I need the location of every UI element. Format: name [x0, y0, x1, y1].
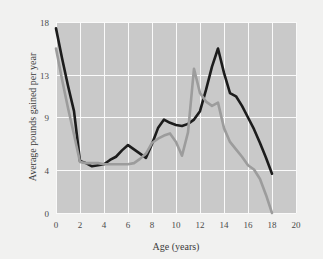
y-tick-label-18: 18: [40, 18, 50, 28]
growth-chart-figure: 02468101214161820 0491318 Age (years) Av…: [0, 0, 323, 259]
x-tick-label-6: 6: [126, 220, 131, 230]
y-axis-title: Average pounds gained per year: [27, 52, 38, 181]
x-tick-label-8: 8: [150, 220, 155, 230]
y-tick-label-4: 4: [45, 166, 50, 176]
y-tick-label-13: 13: [40, 71, 50, 81]
x-tick-label-16: 16: [244, 220, 254, 230]
x-tick-label-14: 14: [220, 220, 230, 230]
x-axis-title: Age (years): [153, 241, 200, 253]
x-tick-label-10: 10: [172, 220, 182, 230]
x-tick-label-18: 18: [268, 220, 278, 230]
x-tick-label-20: 20: [292, 220, 302, 230]
x-tick-label-0: 0: [54, 220, 59, 230]
y-tick-label-0: 0: [45, 209, 50, 219]
x-tick-label-2: 2: [78, 220, 83, 230]
y-tick-label-9: 9: [45, 113, 50, 123]
x-tick-label-4: 4: [102, 220, 107, 230]
x-tick-label-12: 12: [196, 220, 205, 230]
